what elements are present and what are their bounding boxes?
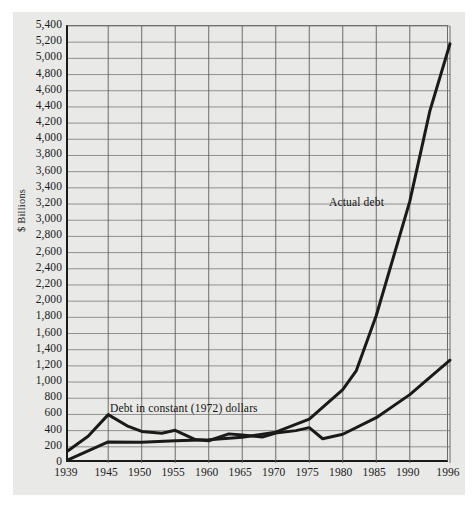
x-tick-label: 1975 — [296, 466, 319, 478]
y-tick-label: 4,000 — [10, 132, 62, 144]
y-tick-label: 1,200 — [10, 359, 62, 371]
y-tick-label: 3,400 — [10, 181, 62, 193]
y-tick-label: 1,400 — [10, 343, 62, 355]
y-tick-label: 3,600 — [10, 165, 62, 177]
y-tick-label: 3,000 — [10, 213, 62, 225]
y-tick-label: 5,200 — [10, 35, 62, 47]
y-tick-label: 3,800 — [10, 148, 62, 160]
series-line-0 — [68, 44, 450, 460]
x-axis-tick-labels: 1939194519501955196019651970197519801985… — [66, 466, 448, 488]
y-tick-label: 1,800 — [10, 310, 62, 322]
y-tick-label: 4,600 — [10, 84, 62, 96]
x-tick-label: 1996 — [436, 466, 459, 478]
y-tick-label: 2,400 — [10, 262, 62, 274]
y-tick-label: 1,600 — [10, 327, 62, 339]
x-tick-label: 1955 — [162, 466, 185, 478]
x-tick-label: 1990 — [396, 466, 419, 478]
y-tick-label: 4,400 — [10, 100, 62, 112]
y-tick-label: 3,200 — [10, 197, 62, 209]
data-series-lines — [68, 26, 450, 463]
y-tick-label: 4,200 — [10, 116, 62, 128]
x-tick-label: 1950 — [128, 466, 151, 478]
y-tick-label: 400 — [10, 424, 62, 436]
y-tick-label: 4,800 — [10, 68, 62, 80]
x-tick-label: 1960 — [195, 466, 218, 478]
debt-line-chart-figure: $ Billions 02004006008001,0001,2001,4001… — [0, 0, 476, 509]
y-tick-label: 2,000 — [10, 294, 62, 306]
y-tick-label: 5,000 — [10, 51, 62, 63]
y-tick-label: 2,200 — [10, 278, 62, 290]
y-tick-label: 2,800 — [10, 229, 62, 241]
series-annotation-constant-dollars: Debt in constant (1972) dollars — [110, 402, 258, 414]
y-tick-label: 2,600 — [10, 246, 62, 258]
y-axis-tick-labels: 02004006008001,0001,2001,4001,6001,8002,… — [8, 25, 62, 462]
x-tick-label: 1970 — [262, 466, 285, 478]
x-tick-label: 1945 — [95, 466, 118, 478]
y-tick-label: 200 — [10, 440, 62, 452]
x-tick-label: 1939 — [54, 466, 77, 478]
x-tick-label: 1985 — [363, 466, 386, 478]
series-annotation-actual-debt: Actual debt — [329, 196, 384, 208]
y-tick-label: 5,400 — [10, 19, 62, 31]
y-tick-label: 600 — [10, 407, 62, 419]
x-tick-label: 1965 — [229, 466, 252, 478]
plot-area — [66, 25, 448, 462]
x-tick-label: 1980 — [329, 466, 352, 478]
y-tick-label: 800 — [10, 391, 62, 403]
y-tick-label: 1,000 — [10, 375, 62, 387]
